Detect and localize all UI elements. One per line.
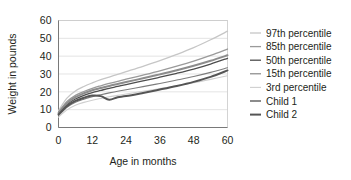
x-tick-label: 48 (188, 134, 200, 146)
y-tick-label: 30 (40, 68, 52, 80)
chart-canvas: 0102030405060 01224364860 Weight in poun… (0, 0, 351, 180)
legend-label: 50th percentile (266, 55, 332, 66)
gridlines (59, 21, 228, 110)
y-tick-label: 60 (40, 14, 52, 26)
series-line (59, 55, 228, 113)
y-tick-label: 0 (46, 121, 52, 133)
y-tick-label: 10 (40, 103, 52, 115)
legend-label: Child 1 (266, 96, 298, 107)
x-axis-title: Age in months (109, 155, 176, 167)
series-line (59, 76, 228, 117)
x-tick-label: 36 (154, 134, 166, 146)
chart-legend: 97th percentile85th percentile50th perce… (250, 28, 332, 121)
y-tick-label: 20 (40, 86, 52, 98)
x-tick-label: 60 (222, 134, 234, 146)
legend-label: 15th percentile (266, 68, 332, 79)
x-tick-label: 24 (120, 134, 132, 146)
growth-chart: 0102030405060 01224364860 Weight in poun… (0, 0, 351, 180)
legend-label: 85th percentile (266, 41, 332, 52)
legend-label: 97th percentile (266, 28, 332, 39)
legend-label: 3rd percentile (266, 82, 327, 93)
y-tick-label: 40 (40, 50, 52, 62)
x-axis-tick-labels: 01224364860 (56, 134, 234, 146)
x-tick-label: 0 (56, 134, 62, 146)
legend-label: Child 2 (266, 109, 298, 120)
y-tick-label: 50 (40, 32, 52, 44)
y-axis-title: Weight in pounds (6, 34, 18, 115)
x-tick-label: 12 (86, 134, 98, 146)
y-axis-tick-labels: 0102030405060 (40, 14, 52, 133)
